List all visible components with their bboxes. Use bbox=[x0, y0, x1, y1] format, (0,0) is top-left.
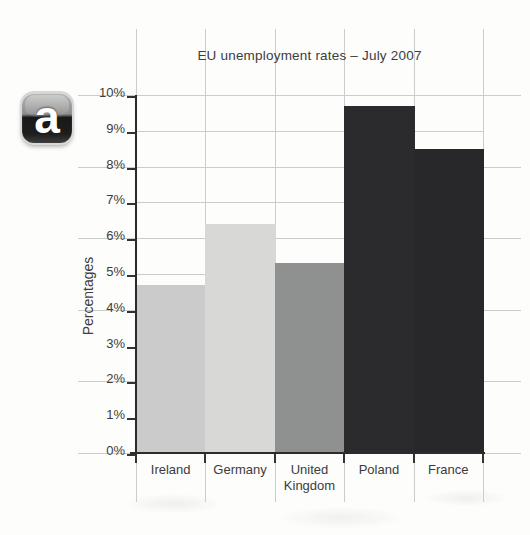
y-axis-label: Percentages bbox=[80, 246, 96, 346]
y-axis-tick bbox=[127, 382, 135, 384]
y-axis-tick bbox=[127, 418, 135, 420]
y-tick-label: 4% bbox=[91, 300, 125, 315]
x-category-label: United Kingdom bbox=[275, 462, 344, 493]
bar-chart: 0%1%2%3%4%5%6%7%8%9%10%IrelandGermanyUni… bbox=[0, 0, 530, 535]
y-tick-label: 2% bbox=[91, 371, 125, 386]
y-tick-label: 0% bbox=[91, 443, 125, 458]
y-axis-tick bbox=[127, 96, 135, 98]
y-tick-label: 6% bbox=[91, 228, 125, 243]
figure-panel: a 0%1%2%3%4%5%6%7%8%9%10%IrelandGermanyU… bbox=[0, 0, 530, 535]
y-axis-tick bbox=[127, 239, 135, 241]
x-category-label: France bbox=[414, 462, 483, 478]
y-axis-tick bbox=[127, 168, 135, 170]
y-axis-tick bbox=[127, 203, 135, 205]
x-category-label: Poland bbox=[344, 462, 413, 478]
x-category-label: Ireland bbox=[136, 462, 205, 478]
y-axis-tick bbox=[127, 311, 135, 313]
y-axis-tick bbox=[127, 132, 135, 134]
y-tick-label: 9% bbox=[91, 121, 125, 136]
x-category-label: Germany bbox=[205, 462, 274, 478]
y-tick-label: 10% bbox=[91, 85, 125, 100]
y-tick-label: 3% bbox=[91, 336, 125, 351]
y-tick-label: 7% bbox=[91, 192, 125, 207]
y-axis-tick bbox=[127, 454, 135, 456]
y-tick-label: 8% bbox=[91, 157, 125, 172]
chart-title: EU unemployment rates – July 2007 bbox=[136, 48, 483, 63]
y-axis-tick bbox=[127, 275, 135, 277]
y-tick-label: 5% bbox=[91, 264, 125, 279]
y-tick-label: 1% bbox=[91, 407, 125, 422]
y-axis-tick bbox=[127, 347, 135, 349]
